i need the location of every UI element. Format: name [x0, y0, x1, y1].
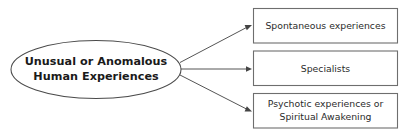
arrowhead-icon [245, 25, 252, 30]
source-node-label-line-2: Human Experiences [33, 70, 159, 83]
arrowhead-icon [246, 66, 252, 72]
target-node-label-line-2: Spiritual Awakening [280, 111, 372, 122]
target-node-label-line-1: Specialists [301, 63, 351, 74]
target-node-label-line-1: Spontaneous experiences [265, 20, 385, 31]
target-node-specialists[interactable]: Specialists [254, 51, 398, 86]
connector-line [180, 75, 247, 109]
target-node-spontaneous-experiences[interactable]: Spontaneous experiences [254, 9, 398, 44]
connector-to-psychotic-experiences [180, 75, 252, 112]
target-node-label-line-1: Psychotic experiences or [268, 98, 384, 109]
diagram-canvas: Unusual or Anomalous Human Experiences S… [0, 0, 412, 131]
connector-to-specialists [181, 66, 252, 72]
source-node-unusual-or-anomalous-human-experiences[interactable]: Unusual or Anomalous Human Experiences [11, 41, 181, 99]
target-node-psychotic-experiences[interactable]: Psychotic experiences or Spiritual Awake… [254, 94, 398, 129]
connector-line [180, 28, 247, 63]
diagram-svg: Unusual or Anomalous Human Experiences S… [0, 0, 412, 131]
arrowhead-icon [245, 106, 252, 111]
connector-to-spontaneous-experiences [180, 25, 252, 63]
source-node-label-line-1: Unusual or Anomalous [25, 55, 168, 68]
